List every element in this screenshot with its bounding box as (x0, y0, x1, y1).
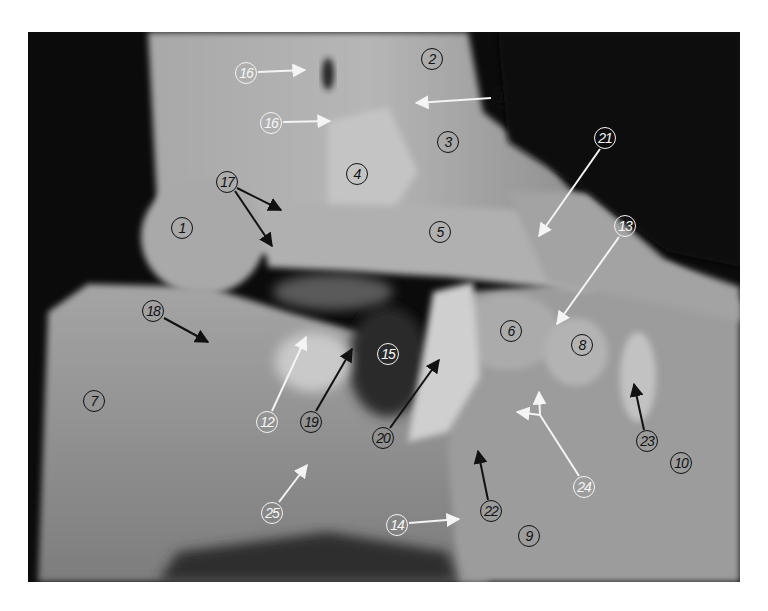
joint-shadow (273, 274, 393, 310)
callout-label-23: 23 (636, 430, 658, 452)
callout-label-11: 11 (492, 86, 514, 108)
callout-label-1: 1 (171, 217, 193, 239)
callout-label-19: 19 (300, 411, 322, 433)
callout-label-20: 20 (372, 427, 394, 449)
callout-label-21: 21 (594, 127, 616, 149)
callout-label-13: 13 (614, 215, 636, 237)
callout-label-17: 17 (216, 171, 238, 193)
callout-label-15: 15 (377, 343, 399, 365)
callout-label-18: 18 (142, 300, 164, 322)
callout-label-25: 25 (261, 502, 283, 524)
callout-label-7: 7 (83, 390, 105, 412)
callout-label-5: 5 (429, 221, 451, 243)
callout-label-6: 6 (500, 320, 522, 342)
talus-lateral-process (275, 332, 351, 392)
anatomy-illustration (28, 32, 740, 582)
callout-label-14: 14 (386, 514, 408, 536)
ankle-ligament-photograph (28, 32, 740, 582)
tendon-fibres (620, 332, 656, 422)
callout-label-10: 10 (670, 452, 692, 474)
callout-label-3: 3 (437, 131, 459, 153)
lateral-malleolus (141, 179, 265, 295)
callout-label-22: 22 (480, 500, 502, 522)
callout-label-8: 8 (571, 334, 593, 356)
callout-label-16a: 16 (235, 62, 257, 84)
callout-label-12: 12 (256, 411, 278, 433)
callout-label-9: 9 (518, 525, 540, 547)
callout-label-2: 2 (421, 48, 443, 70)
callout-label-16b: 16 (260, 112, 282, 134)
callout-label-24: 24 (573, 476, 595, 498)
callout-label-4: 4 (346, 163, 368, 185)
